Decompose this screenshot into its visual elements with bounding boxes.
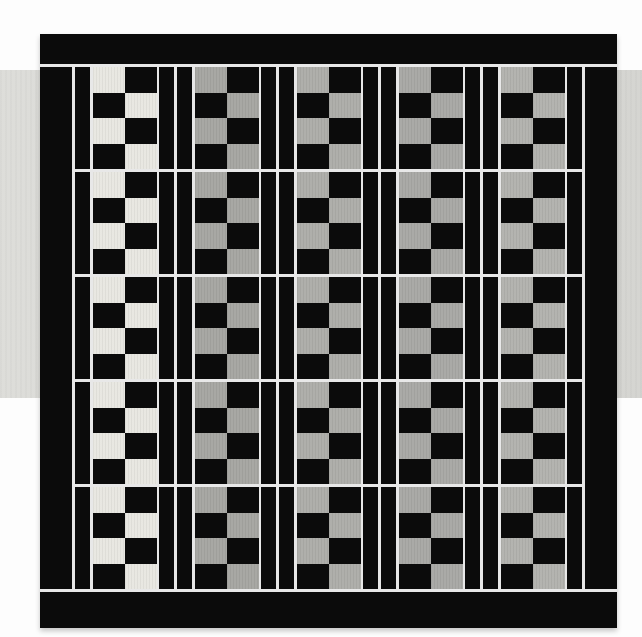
checker-cell-light [195, 277, 227, 303]
block-checkerboard [501, 277, 565, 379]
checker-cell-light [431, 144, 463, 170]
checker-cell-dark [533, 328, 565, 354]
checker-cell-dark [125, 223, 157, 249]
block-checkerboard [399, 382, 463, 484]
checker-cell-dark [93, 144, 125, 170]
block-checkerboard [195, 277, 259, 379]
checker-cell-dark [399, 249, 431, 275]
block-checkerboard [297, 487, 361, 589]
checker-cell-light [399, 172, 431, 198]
checker-cell-light [93, 487, 125, 513]
checker-cell-dark [297, 303, 329, 329]
checker-cell-dark [533, 67, 565, 93]
quilt-block [177, 67, 276, 169]
block-checkerboard [195, 487, 259, 589]
checker-cell-light [533, 93, 565, 119]
quilt-block [75, 382, 174, 484]
block-side-bar [381, 67, 396, 169]
checker-cell-dark [533, 172, 565, 198]
checker-cell-dark [297, 354, 329, 380]
checker-cell-dark [329, 118, 361, 144]
checker-cell-light [297, 487, 329, 513]
checker-cell-dark [533, 433, 565, 459]
checker-cell-light [329, 564, 361, 590]
checker-cell-dark [227, 538, 259, 564]
block-side-bar [381, 172, 396, 274]
checker-cell-light [501, 118, 533, 144]
checker-cell-light [227, 564, 259, 590]
checker-cell-dark [533, 538, 565, 564]
checker-cell-dark [431, 277, 463, 303]
block-checkerboard [501, 382, 565, 484]
checker-cell-light [431, 93, 463, 119]
block-checkerboard [195, 172, 259, 274]
checker-cell-light [93, 328, 125, 354]
checker-cell-light [125, 144, 157, 170]
block-side-bar [261, 172, 276, 274]
checker-cell-dark [399, 513, 431, 539]
block-side-bar [75, 487, 90, 589]
checker-cell-light [227, 93, 259, 119]
checker-cell-dark [501, 354, 533, 380]
block-side-bar [279, 382, 294, 484]
quilt-block [483, 277, 582, 379]
checker-cell-dark [399, 303, 431, 329]
block-side-bar [363, 487, 378, 589]
checker-cell-light [399, 223, 431, 249]
checker-cell-light [93, 277, 125, 303]
block-checkerboard [195, 67, 259, 169]
checker-cell-light [501, 223, 533, 249]
checker-cell-dark [399, 93, 431, 119]
side-border-column-left [40, 67, 72, 589]
checker-cell-light [329, 459, 361, 485]
block-checkerboard [195, 382, 259, 484]
quilt-block [279, 67, 378, 169]
block-side-bar [363, 67, 378, 169]
checker-cell-dark [501, 198, 533, 224]
block-side-bar [159, 277, 174, 379]
checker-cell-dark [125, 67, 157, 93]
checker-cell-dark [297, 144, 329, 170]
block-checkerboard [93, 382, 157, 484]
checker-cell-light [399, 277, 431, 303]
checker-cell-dark [195, 198, 227, 224]
block-checkerboard [297, 172, 361, 274]
quilt-block-row [75, 67, 582, 169]
block-side-bar [465, 277, 480, 379]
checker-cell-light [93, 433, 125, 459]
checker-cell-light [195, 118, 227, 144]
checker-cell-light [227, 144, 259, 170]
checker-cell-dark [329, 67, 361, 93]
checker-cell-light [329, 513, 361, 539]
block-side-bar [159, 382, 174, 484]
checker-cell-dark [329, 223, 361, 249]
checker-cell-light [297, 277, 329, 303]
block-side-bar [75, 382, 90, 484]
checker-cell-dark [533, 487, 565, 513]
block-side-bar [279, 67, 294, 169]
checker-cell-light [533, 198, 565, 224]
block-side-bar [483, 277, 498, 379]
checker-cell-light [297, 538, 329, 564]
checker-cell-dark [227, 487, 259, 513]
checker-cell-light [125, 513, 157, 539]
checker-cell-light [501, 382, 533, 408]
checker-cell-dark [125, 172, 157, 198]
checker-cell-dark [399, 564, 431, 590]
checker-cell-dark [297, 513, 329, 539]
block-side-bar [465, 67, 480, 169]
block-side-bar [483, 382, 498, 484]
checker-cell-light [501, 538, 533, 564]
checker-cell-dark [329, 433, 361, 459]
page-background [0, 0, 642, 637]
checker-cell-dark [125, 118, 157, 144]
block-side-bar [363, 172, 378, 274]
checker-cell-dark [195, 93, 227, 119]
checker-cell-dark [431, 382, 463, 408]
checker-cell-light [227, 198, 259, 224]
checker-cell-dark [431, 328, 463, 354]
block-side-bar [567, 382, 582, 484]
checker-cell-light [125, 303, 157, 329]
checker-cell-light [125, 459, 157, 485]
block-side-bar [279, 172, 294, 274]
